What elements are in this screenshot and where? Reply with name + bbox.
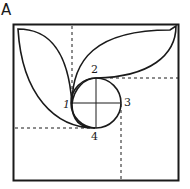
point-label-4: 4 [91, 130, 98, 143]
figure-title: A [1, 1, 12, 19]
point-label-2: 2 [91, 63, 98, 76]
left-leaf-shape [18, 29, 95, 128]
right-leaf-shape [72, 26, 176, 104]
point-label-1: 1 [63, 98, 70, 111]
leaf-construction-diagram: A 1 2 3 4 [0, 0, 190, 189]
point-label-3: 3 [124, 96, 131, 109]
